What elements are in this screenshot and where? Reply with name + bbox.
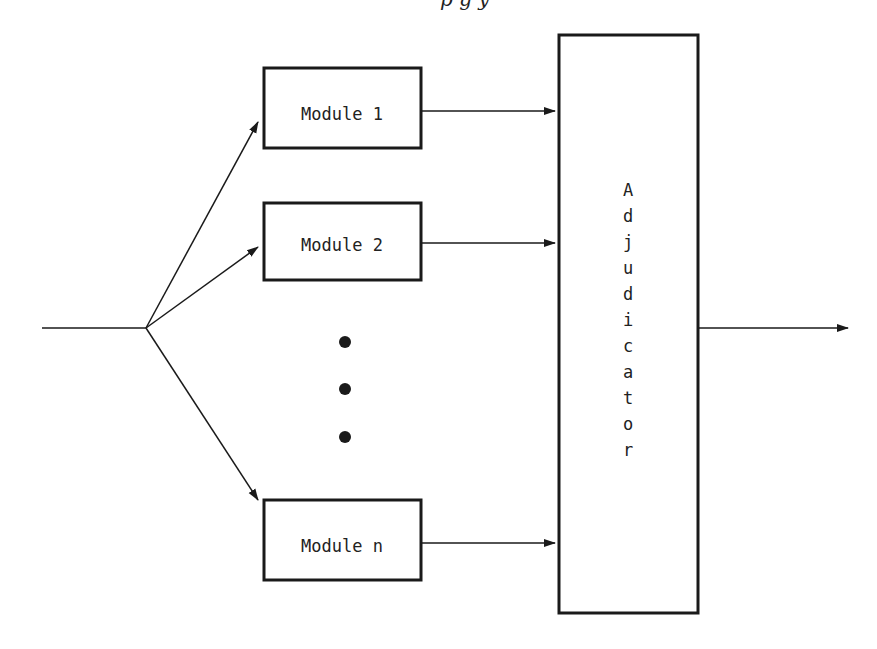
adjudicator-letter: u: [623, 258, 633, 278]
adjudicator-letter: j: [623, 232, 633, 252]
module-1-box: Module 1: [264, 68, 421, 148]
adjudicator-letter: o: [623, 414, 633, 434]
module-n-label: Module n: [301, 536, 383, 556]
fanout-arrow-module-n: [146, 328, 258, 500]
module-2-box: Module 2: [264, 203, 421, 280]
adjudicator-box: A d j u d i c a t o r: [559, 35, 698, 613]
module-2-label: Module 2: [301, 235, 383, 255]
adjudicator-letter: a: [623, 362, 633, 382]
redundancy-diagram: p g y Module 1 Module 2 Module n A d j u…: [0, 0, 877, 649]
adjudicator-letter: A: [623, 180, 633, 200]
adjudicator-letter: d: [623, 206, 633, 226]
fanout-arrow-module-2: [146, 247, 258, 328]
fanout-arrow-module-1: [146, 122, 258, 328]
module-1-label: Module 1: [301, 104, 383, 124]
adjudicator-letter: c: [623, 336, 633, 356]
adjudicator-letter: d: [623, 284, 633, 304]
module-n-box: Module n: [264, 500, 421, 580]
adjudicator-letter: t: [623, 388, 633, 408]
adjudicator-letter: r: [623, 440, 633, 460]
adjudicator-letter: i: [623, 310, 633, 330]
caption-fragment: p g y: [440, 0, 490, 11]
ellipsis-dots: [339, 336, 351, 443]
